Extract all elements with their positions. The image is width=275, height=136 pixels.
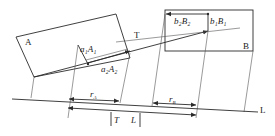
point-a xyxy=(87,63,89,65)
diagram-canvas: A B T L a₁A₁ a₂A₂ b₂B₂ b₁B₁ rA rB T L xyxy=(0,0,275,136)
label-b2b2: b₂B₂ xyxy=(174,16,190,26)
label-rb: rB xyxy=(169,94,176,105)
block-b-projection-line xyxy=(244,51,253,112)
projection-b-left xyxy=(152,14,165,106)
dimension-total xyxy=(68,108,196,115)
block-a-projection-line xyxy=(31,77,34,98)
label-a1a1: a₁A₁ xyxy=(80,44,96,54)
label-line-t: T xyxy=(134,30,140,40)
label-ra: rA xyxy=(90,89,98,100)
line-l xyxy=(12,99,258,112)
label-t-bar: T xyxy=(114,115,120,125)
label-b1b1: b₁B₁ xyxy=(210,16,226,26)
projection-a-right xyxy=(120,53,130,103)
label-l-bar: L xyxy=(130,115,136,125)
label-a2a2: a₂A₂ xyxy=(101,64,117,74)
label-block-a: A xyxy=(25,37,32,47)
label-line-l: L xyxy=(260,105,266,115)
projection-a-left xyxy=(68,45,78,118)
label-block-b: B xyxy=(243,41,249,51)
projection-b-right xyxy=(196,31,208,118)
point-b xyxy=(207,13,209,15)
